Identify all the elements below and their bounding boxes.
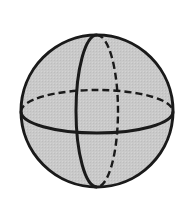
sphere-outline [21, 35, 173, 187]
sphere-diagram: Sphere with equator and meridian [0, 0, 186, 199]
sphere-svg [0, 0, 186, 199]
